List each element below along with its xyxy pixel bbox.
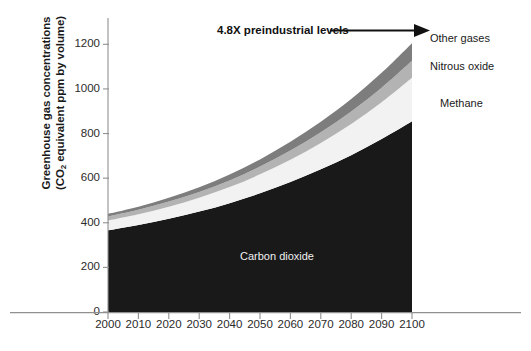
stacked-areas xyxy=(108,43,412,312)
annotation-preindustrial-multiplier: 4.8X preindustrial levels xyxy=(217,24,349,36)
series-label-nitrous-oxide: Nitrous oxide xyxy=(430,60,494,72)
arrow-head xyxy=(414,24,430,37)
series-label-other-gases: Other gases xyxy=(430,32,490,44)
series-label-methane: Methane xyxy=(440,97,483,109)
greenhouse-gas-stacked-area-chart: Greenhouse gas concentrations (CO2 equiv… xyxy=(0,0,531,351)
series-label-carbon-dioxide: Carbon dioxide xyxy=(240,250,314,262)
plot-area xyxy=(0,0,531,351)
